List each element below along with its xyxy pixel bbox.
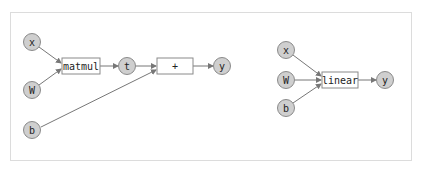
fused-node-x[interactable]: x <box>278 42 295 59</box>
node-t[interactable]: t <box>119 58 136 75</box>
node-b[interactable]: b <box>24 122 41 139</box>
node-w-label: W <box>29 85 36 96</box>
edge-w-matmul <box>39 69 61 85</box>
node-w[interactable]: W <box>24 82 41 99</box>
node-y[interactable]: y <box>214 58 231 75</box>
edge-x-matmul <box>39 47 61 63</box>
fused-node-w[interactable]: W <box>278 72 295 89</box>
node-x[interactable]: x <box>24 34 41 51</box>
edge-x-linear <box>293 55 321 76</box>
op-add[interactable]: + <box>157 58 193 74</box>
node-x-label: x <box>29 37 35 48</box>
op-linear[interactable]: linear <box>322 72 358 88</box>
fused-node-x-label: x <box>283 45 289 56</box>
fused-node-b[interactable]: b <box>278 100 295 117</box>
fused-node-y[interactable]: y <box>377 72 394 89</box>
op-matmul[interactable]: matmul <box>62 58 100 74</box>
op-matmul-label: matmul <box>63 61 99 72</box>
fused-node-y-label: y <box>382 75 388 86</box>
op-add-label: + <box>172 61 178 72</box>
node-y-label: y <box>219 61 225 72</box>
fused-node-w-label: W <box>283 75 290 86</box>
node-b-label: b <box>29 125 35 136</box>
edge-b-add <box>41 70 156 127</box>
op-linear-label: linear <box>322 75 358 86</box>
node-t-label: t <box>124 61 130 72</box>
edge-b-linear <box>293 84 321 103</box>
graph-canvas: x W b matmul t + y x W b <box>0 0 425 171</box>
fused-node-b-label: b <box>283 103 289 114</box>
